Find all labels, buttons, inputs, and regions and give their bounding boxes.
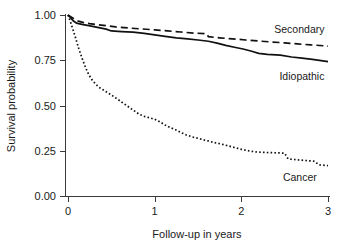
survival-curve-figure: 0.000.250.500.751.00 0123 SecondaryIdiop…: [0, 0, 345, 248]
x-tick-label: 3: [325, 205, 331, 217]
x-axis-ticks: 0123: [65, 197, 331, 218]
x-tick-label: 2: [238, 205, 244, 217]
x-axis-title: Follow-up in years: [152, 228, 242, 240]
y-tick-label: 0.25: [35, 145, 56, 157]
y-axis-title: Survival probability: [5, 59, 17, 152]
data-curves: [68, 15, 328, 166]
x-tick-label: 1: [152, 205, 158, 217]
y-tick-label: 0.75: [35, 54, 56, 66]
series-label-secondary: Secondary: [274, 23, 325, 35]
y-tick-label: 0.00: [35, 190, 56, 202]
curve-cancer: [68, 15, 328, 166]
y-axis-ticks: 0.000.250.500.751.00: [35, 9, 66, 202]
axes: [66, 14, 331, 197]
x-tick-label: 0: [65, 205, 71, 217]
series-annotations: SecondaryIdiopathicCancer: [274, 23, 325, 183]
y-tick-label: 0.50: [35, 100, 56, 112]
series-label-idiopathic: Idiopathic: [279, 70, 324, 82]
y-tick-label: 1.00: [35, 9, 56, 21]
series-label-cancer: Cancer: [283, 171, 317, 183]
chart-canvas: 0.000.250.500.751.00 0123 SecondaryIdiop…: [0, 0, 345, 248]
